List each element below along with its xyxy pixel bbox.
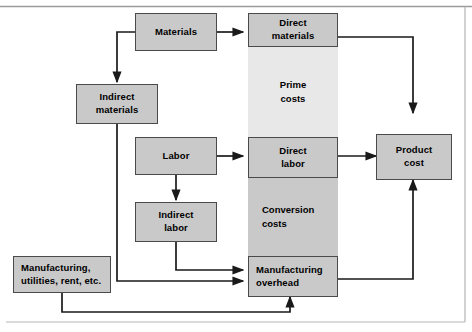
edge-indirect-labor-to-overhead (176, 242, 243, 270)
node-manufacturing-overhead[interactable]: Manufacturing overhead (248, 256, 338, 297)
node-product-cost-line2: cost (396, 157, 433, 170)
node-direct-materials[interactable]: Direct materials (248, 13, 338, 47)
node-indirect-labor-line1: Indirect (158, 209, 193, 222)
node-labor-label: Labor (163, 150, 190, 163)
node-direct-labor-line1: Direct (279, 145, 307, 158)
prime-costs-label-line1: Prime (280, 78, 306, 92)
prime-costs-label-line2: costs (280, 92, 306, 106)
edge-materials-to-indirect-materials (117, 32, 135, 82)
node-labor[interactable]: Labor (135, 137, 217, 175)
node-indirect-materials[interactable]: Indirect materials (76, 84, 158, 124)
node-manufacturing-utilities-line2: utilities, rent, etc. (21, 275, 101, 288)
conversion-costs-label-line1: Conversion (262, 203, 314, 217)
node-manufacturing-overhead-line1: Manufacturing (256, 264, 323, 277)
node-product-cost[interactable]: Product cost (376, 134, 452, 180)
node-materials-label: Materials (155, 26, 197, 39)
node-product-cost-line1: Product (396, 144, 433, 157)
edge-direct-materials-to-product-cost (338, 37, 413, 113)
node-manufacturing-utilities[interactable]: Manufacturing, utilities, rent, etc. (13, 256, 111, 293)
node-manufacturing-utilities-line1: Manufacturing, (21, 262, 101, 275)
node-manufacturing-overhead-line2: overhead (256, 277, 323, 290)
node-indirect-labor-line2: labor (158, 222, 193, 235)
edge-overhead-to-product-cost (338, 180, 413, 279)
node-direct-labor[interactable]: Direct labor (248, 137, 338, 178)
conversion-costs-label: Conversion costs (248, 178, 338, 256)
prime-costs-label: Prime costs (248, 46, 338, 138)
node-materials[interactable]: Materials (135, 13, 217, 51)
node-indirect-labor[interactable]: Indirect labor (135, 202, 217, 242)
node-direct-labor-line2: labor (279, 158, 307, 171)
node-direct-materials-line1: Direct (272, 17, 315, 30)
conversion-costs-label-line2: costs (262, 217, 314, 231)
node-direct-materials-line2: materials (272, 30, 315, 43)
node-indirect-materials-line2: materials (96, 104, 139, 117)
diagram-page: Prime costs Conversion costs Materials I… (0, 0, 472, 332)
node-indirect-materials-line1: Indirect (96, 91, 139, 104)
